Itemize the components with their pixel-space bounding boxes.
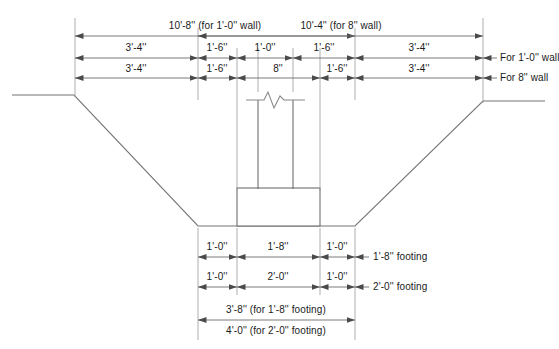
dim-note-1ft8in-footing: 1'-8'' footing — [373, 251, 427, 262]
dim-top-r3-seg1: 3'-4'' — [126, 63, 147, 74]
dim-bot-r2-seg1: 1'-0'' — [207, 271, 228, 282]
dim-note-2ft0in-footing: 2'-0'' footing — [373, 281, 427, 292]
dim-note-for-8in-wall: For 8'' wall — [500, 72, 548, 83]
dim-top-r2-seg3: 1'-0'' — [255, 42, 276, 53]
dim-top-right-span-label: 10'-4'' (for 8'' wall) — [300, 20, 381, 31]
dim-top-r2-seg4: 1'-6'' — [314, 42, 335, 53]
dim-bot-total-2ft0-footing: 4'-0'' (for 2'-0'' footing) — [226, 325, 326, 336]
wall-outline — [258, 100, 293, 189]
dim-top-r3-seg5: 3'-4'' — [409, 63, 430, 74]
dim-top-r3-seg3: 8'' — [273, 63, 283, 74]
dim-top-r2-seg1: 3'-4'' — [126, 42, 147, 53]
dim-bot-r1-seg2: 1'-8'' — [268, 241, 289, 252]
dim-bot-r1-seg3: 1'-0'' — [327, 241, 348, 252]
dim-note-for-1ft-wall: For 1'-0'' wall — [500, 52, 559, 63]
dim-top-r2-seg2: 1'-6'' — [207, 42, 228, 53]
dim-top-left-span-label: 10'-8'' (for 1'-0'' wall) — [169, 20, 261, 31]
dim-bot-r2-seg3: 1'-0'' — [327, 271, 348, 282]
dim-bot-r2-seg2: 2'-0'' — [268, 271, 289, 282]
break-line-symbol — [246, 92, 305, 108]
dim-top-r2-seg5: 3'-4'' — [409, 42, 430, 53]
dim-bot-r1-seg1: 1'-0'' — [207, 241, 228, 252]
footing-rectangle — [237, 188, 320, 226]
dim-top-r3-seg2: 1'-6'' — [207, 63, 228, 74]
dim-top-r3-seg4: 1'-6'' — [327, 63, 348, 74]
dim-bot-total-1ft8-footing: 3'-8'' (for 1'-8'' footing) — [226, 304, 326, 315]
